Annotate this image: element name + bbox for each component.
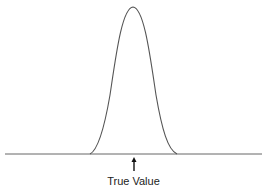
distribution-diagram — [0, 0, 267, 192]
bell-curve — [90, 7, 177, 154]
true-value-arrow-icon — [132, 157, 137, 171]
true-value-label: True Value — [0, 175, 267, 187]
